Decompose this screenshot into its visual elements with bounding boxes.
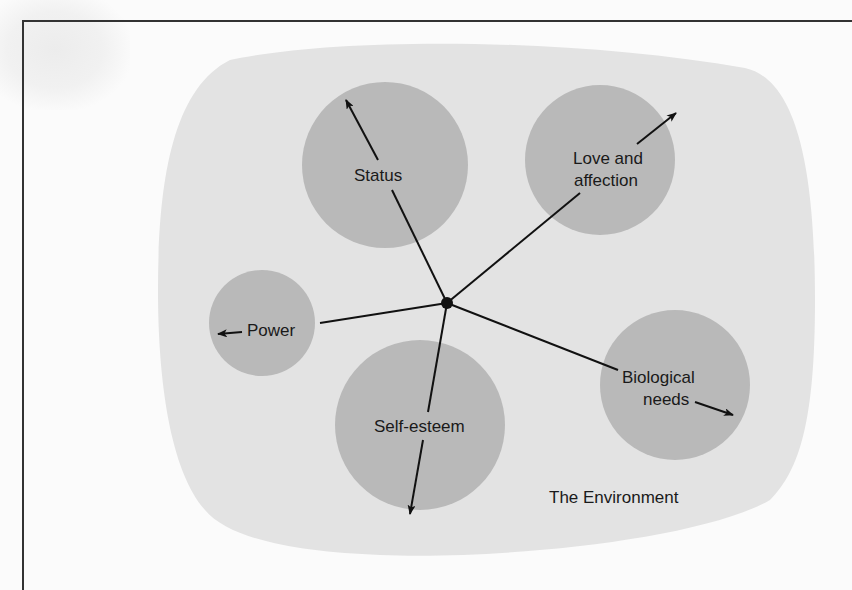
love-and-affection-label-line2: affection [574,171,638,190]
center-node [441,297,453,309]
status-circle [302,82,468,248]
love-and-affection-label-line1: Love and [573,149,643,168]
self-esteem-label: Self-esteem [374,417,465,436]
environment-label: The Environment [549,488,679,507]
status-label: Status [354,166,402,185]
power-label: Power [247,321,296,340]
biological-needs-label-line1: Biological [622,368,695,387]
biological-needs-label-line2: needs [643,390,689,409]
